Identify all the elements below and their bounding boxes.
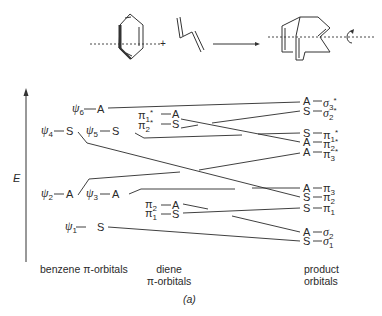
benzene-orbital-psi6: ψ6: [72, 102, 84, 119]
product-symmetry-pi3-star: A: [303, 146, 310, 158]
reaction-scheme: [90, 14, 376, 60]
caption-diene-line2: π-orbitals: [137, 275, 201, 287]
caption-benzene-orbitals: benzene π-orbitals: [40, 263, 128, 275]
product-orbital-pi3-star: π3*: [323, 146, 338, 165]
product-orbital-sigma1: σ1: [323, 235, 333, 252]
benzene-symmetry-psi2: A: [66, 188, 73, 200]
diene-orbital-pi1: π1: [145, 207, 157, 224]
benzene-orbital-psi4: ψ4: [41, 124, 53, 141]
product-symmetry-sigma2-star: S: [303, 105, 310, 117]
energy-axis: [24, 88, 29, 262]
product-cage-icon: [282, 17, 330, 60]
benzene-symmetry-psi5: S: [112, 125, 119, 137]
product-symmetry-sigma1: S: [303, 235, 310, 247]
energy-axis-label: E: [13, 172, 20, 184]
diene-symmetry-pi2-star: S: [172, 118, 179, 130]
product-orbital-sigma2-star: σ2*: [323, 105, 337, 124]
plus-sign: +: [160, 38, 166, 50]
diene-symmetry-pi1: S: [172, 208, 179, 220]
panel-label: (a): [183, 293, 196, 305]
benzene-symmetry-psi4: S: [66, 125, 73, 137]
caption-diene-line1: diene: [147, 263, 191, 275]
product-symmetry-pi1: S: [303, 202, 310, 214]
benzene-symmetry-psi1: S: [97, 221, 104, 233]
benzene-symmetry-psi6: A: [97, 103, 104, 115]
caption-product-line1: product: [304, 263, 339, 275]
caption-product-line2: orbitals: [304, 275, 338, 287]
level-dashes: [54, 101, 322, 241]
benzene-symmetry-psi3: A: [112, 188, 119, 200]
product-orbital-pi1: π1: [323, 202, 335, 219]
benzene-orbital-psi5: ψ5: [86, 124, 98, 141]
diene-orbital-pi2-star: π2*: [138, 117, 153, 136]
benzene-icon: [119, 14, 143, 59]
benzene-orbital-psi3: ψ3: [86, 187, 98, 204]
correlation-lines: [78, 102, 300, 241]
benzene-orbital-psi1: ψ1: [65, 220, 77, 237]
butadiene-icon: [177, 17, 204, 52]
benzene-orbital-psi2: ψ2: [41, 187, 53, 204]
